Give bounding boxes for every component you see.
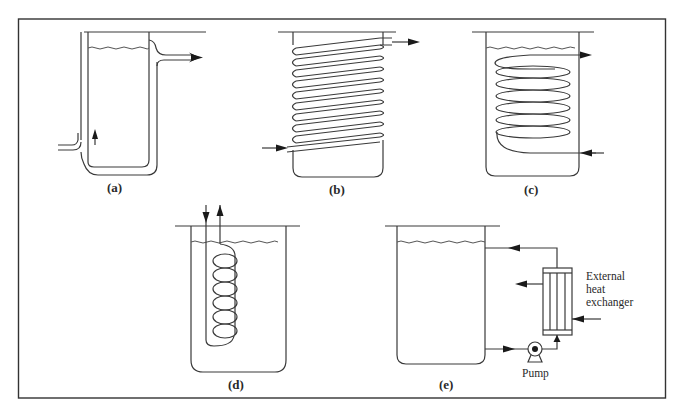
outlet-arrow-icon [408,39,420,46]
utility-out-arrow-icon [515,281,527,288]
panel-e-label: (e) [439,377,453,392]
panel-b-external-coil: (b) [262,32,420,197]
inlet-arrow-icon [276,145,288,152]
feed-arrow-icon [503,346,515,353]
coil-loops [495,55,596,153]
panel-d-coil-bundle: (d) [175,205,300,392]
coil-turns [287,38,384,152]
return-arrow-icon [508,245,520,252]
external-hx-label: heat [586,283,606,295]
heat-exchanger [543,268,572,335]
inlet-arrow-icon [92,129,98,139]
coil-loops [213,254,237,338]
external-hx-label: External [586,270,625,282]
inlet-arrow-icon [580,150,592,157]
heat-transfer-configurations-figure: (a) [0,0,684,416]
panel-c-internal-coil: (c) [472,32,604,197]
pump-icon [528,342,542,362]
panel-d-label: (d) [228,377,244,392]
panel-c-label: (c) [524,182,538,197]
panel-e-external-hx: External heat exchanger Pump (e) [385,226,633,392]
inflow-arrow-icon [203,212,210,223]
utility-in-arrow-icon [572,316,584,323]
panel-a-jacketed-vessel: (a) [58,32,206,195]
pump-label: Pump [522,367,549,380]
panel-b-label: (b) [329,182,345,197]
external-hx-label: exchanger [586,296,633,309]
panel-a-label: (a) [107,180,122,195]
outflow-arrow-icon [217,205,224,216]
outlet-arrow-icon [580,52,592,59]
